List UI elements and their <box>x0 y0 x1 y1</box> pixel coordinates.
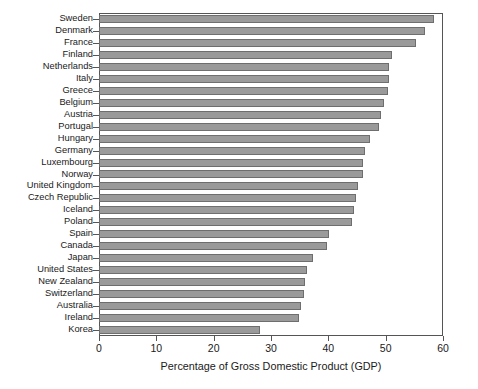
y-axis-tick-label: Canada <box>60 240 93 252</box>
bar-row[interactable] <box>99 264 443 276</box>
bar[interactable] <box>99 254 313 262</box>
x-axis-tick-mark <box>386 336 387 341</box>
bar[interactable] <box>99 87 388 95</box>
bar[interactable] <box>99 123 379 131</box>
bar-row[interactable] <box>99 61 443 73</box>
x-axis-tick-mark <box>214 336 215 341</box>
bar[interactable] <box>99 63 389 71</box>
bar[interactable] <box>99 51 392 59</box>
x-axis-tick-label: 0 <box>96 342 102 354</box>
bar[interactable] <box>99 135 370 143</box>
bar-row[interactable] <box>99 228 443 240</box>
y-axis-tick-label: Sweden <box>59 13 93 25</box>
y-axis-tick-label: Ireland <box>65 312 93 324</box>
y-axis-tick-label: Denmark <box>55 25 93 37</box>
bar[interactable] <box>99 111 381 119</box>
bar-row[interactable] <box>99 85 443 97</box>
bar[interactable] <box>99 159 363 167</box>
bar-row[interactable] <box>99 157 443 169</box>
x-axis-tick-mark <box>443 336 444 341</box>
y-axis-tick-label: New Zealand <box>38 276 93 288</box>
x-axis-tick-mark <box>271 336 272 341</box>
bar-row[interactable] <box>99 216 443 228</box>
x-axis-tick-label: 40 <box>322 342 334 354</box>
bar[interactable] <box>99 15 434 23</box>
y-axis-tick-label: Luxembourg <box>41 157 93 169</box>
y-axis-tick-label: Czech Republic <box>28 192 93 204</box>
bar[interactable] <box>99 75 389 83</box>
y-axis-labels: SwedenDenmarkFranceFinlandNetherlandsIta… <box>0 13 93 336</box>
y-axis-tick-label: Korea <box>68 324 93 336</box>
bar-row[interactable] <box>99 180 443 192</box>
bar-row[interactable] <box>99 145 443 157</box>
bar[interactable] <box>99 39 416 47</box>
y-axis-tick-label: Netherlands <box>43 61 93 73</box>
bar-row[interactable] <box>99 300 443 312</box>
bar-row[interactable] <box>99 276 443 288</box>
bar[interactable] <box>99 302 301 310</box>
y-axis-tick-label: Spain <box>69 228 93 240</box>
bar[interactable] <box>99 266 307 274</box>
bar-row[interactable] <box>99 169 443 181</box>
bar[interactable] <box>99 182 358 190</box>
bar[interactable] <box>99 147 365 155</box>
bar-row[interactable] <box>99 324 443 336</box>
y-axis-tick-label: United Kingdom <box>27 180 93 192</box>
bar-row[interactable] <box>99 13 443 25</box>
bar[interactable] <box>99 314 299 322</box>
y-axis-tick-label: Iceland <box>63 204 93 216</box>
bar-row[interactable] <box>99 25 443 37</box>
y-axis-tick-label: Norway <box>61 169 93 181</box>
bar-row[interactable] <box>99 73 443 85</box>
bar-row[interactable] <box>99 121 443 133</box>
bar-row[interactable] <box>99 312 443 324</box>
bar-row[interactable] <box>99 37 443 49</box>
bar[interactable] <box>99 242 327 250</box>
x-axis-tick-label: 20 <box>208 342 220 354</box>
bar[interactable] <box>99 230 329 238</box>
y-axis-tick-label: Austria <box>64 109 93 121</box>
gdp-bar-chart: SwedenDenmarkFranceFinlandNetherlandsIta… <box>0 0 478 389</box>
y-axis-tick-label: Greece <box>63 85 94 97</box>
y-axis-tick-label: Germany <box>55 145 93 157</box>
bar[interactable] <box>99 27 425 35</box>
bar[interactable] <box>99 99 384 107</box>
bar-row[interactable] <box>99 192 443 204</box>
bar-row[interactable] <box>99 109 443 121</box>
y-axis-tick-label: Hungary <box>58 133 93 145</box>
x-axis-tick-label: 10 <box>150 342 162 354</box>
bar[interactable] <box>99 206 354 214</box>
y-axis-tick-label: Finland <box>63 49 94 61</box>
x-axis-tick-mark <box>156 336 157 341</box>
bar-row[interactable] <box>99 133 443 145</box>
bar-row[interactable] <box>99 252 443 264</box>
bar[interactable] <box>99 218 352 226</box>
y-axis-tick-label: Belgium <box>59 97 93 109</box>
bar-row[interactable] <box>99 240 443 252</box>
x-axis-tick-label: 30 <box>265 342 277 354</box>
bar-row[interactable] <box>99 49 443 61</box>
bar-row[interactable] <box>99 204 443 216</box>
bar[interactable] <box>99 326 260 334</box>
bar-row[interactable] <box>99 97 443 109</box>
x-axis-tick-label: 60 <box>437 342 449 354</box>
bar-row[interactable] <box>99 288 443 300</box>
y-axis-tick-label: Japan <box>68 252 93 264</box>
bar[interactable] <box>99 194 356 202</box>
y-axis-tick-label: United States <box>37 264 93 276</box>
x-axis-tick-mark <box>328 336 329 341</box>
bar[interactable] <box>99 170 363 178</box>
y-axis-tick-label: Italy <box>76 73 93 85</box>
y-axis-tick-label: Switzerland <box>45 288 93 300</box>
y-axis-tick-label: Australia <box>57 300 93 312</box>
y-axis-tick-label: Portugal <box>58 121 93 133</box>
x-axis-title: Percentage of Gross Domestic Product (GD… <box>99 360 443 372</box>
x-axis-tick-mark <box>99 336 100 341</box>
bars-layer <box>99 13 443 336</box>
y-axis-tick-label: France <box>64 37 93 49</box>
x-axis-tick-label: 50 <box>380 342 392 354</box>
y-axis-tick-label: Poland <box>64 216 93 228</box>
bar[interactable] <box>99 278 305 286</box>
bar[interactable] <box>99 290 304 298</box>
